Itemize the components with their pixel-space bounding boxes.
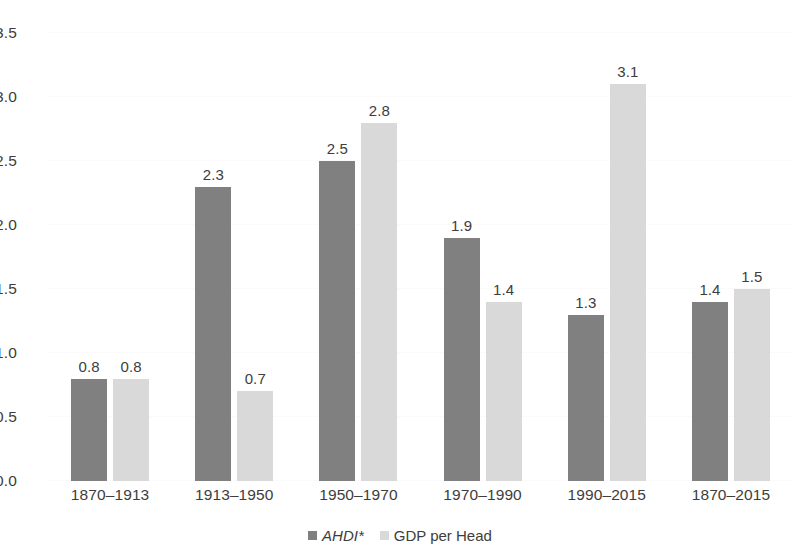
x-axis-tick-label: 1990–2015 [545,487,669,503]
x-axis-tick-label: 1913–1950 [172,487,296,503]
bar-value-label: 1.5 [741,269,762,284]
y-axis-tick-label: 1.5 [0,281,35,297]
bar-value-label: 2.5 [327,141,348,156]
legend-label: AHDI* [322,528,364,543]
chart-legend: AHDI*GDP per Head [0,528,800,543]
bar-ahdi[interactable]: 2.3 [195,187,231,481]
y-axis-tick-label: 2.5 [0,153,35,169]
bar-group: 2.30.7 [172,33,296,481]
legend-item-ahdi[interactable]: AHDI* [308,528,364,543]
bar-group: 2.52.8 [296,33,420,481]
bar-value-label: 1.4 [699,282,720,297]
bar-group: 0.80.8 [48,33,172,481]
bar-value-label: 1.9 [451,218,472,233]
bar-gdp-per-head[interactable]: 0.8 [113,379,149,481]
y-axis-tick-label: 3.5 [0,25,35,41]
legend-swatch-icon [308,531,317,540]
bar-value-label: 2.8 [369,103,390,118]
legend-label: GDP per Head [394,528,492,543]
y-axis-tick-label: 0.5 [0,409,35,425]
plot-area: 0.00.51.01.52.02.53.03.5 0.80.82.30.72.5… [48,33,793,481]
bar-chart: 0.00.51.01.52.02.53.03.5 0.80.82.30.72.5… [0,0,800,560]
bar-value-label: 1.3 [575,295,596,310]
bar-value-label: 3.1 [617,64,638,79]
bar-group: 1.91.4 [421,33,545,481]
bar-gdp-per-head[interactable]: 1.5 [734,289,770,481]
bar-ahdi[interactable]: 1.3 [568,315,604,481]
bar-ahdi[interactable]: 1.4 [692,302,728,481]
bar-value-label: 0.7 [245,371,266,386]
bar-gdp-per-head[interactable]: 0.7 [237,391,273,481]
bar-value-label: 2.3 [203,167,224,182]
x-axis: 1870–19131913–19501950–19701970–19901990… [48,487,793,503]
bar-value-label: 0.8 [121,359,142,374]
legend-item-gdp-per-head[interactable]: GDP per Head [380,528,492,543]
y-axis-tick-label: 1.0 [0,345,35,361]
bar-value-label: 0.8 [79,359,100,374]
bar-gdp-per-head[interactable]: 1.4 [486,302,522,481]
bar-ahdi[interactable]: 0.8 [71,379,107,481]
legend-swatch-icon [380,531,389,540]
x-axis-tick-label: 1870–2015 [669,487,793,503]
bar-value-label: 1.4 [493,282,514,297]
x-axis-tick-label: 1950–1970 [296,487,420,503]
y-axis-tick-label: 2.0 [0,217,35,233]
bar-ahdi[interactable]: 1.9 [444,238,480,481]
y-axis-tick-label: 0.0 [0,473,35,489]
bar-groups: 0.80.82.30.72.52.81.91.41.33.11.41.5 [48,33,793,481]
bar-gdp-per-head[interactable]: 3.1 [610,84,646,481]
bar-ahdi[interactable]: 2.5 [319,161,355,481]
x-axis-tick-label: 1970–1990 [421,487,545,503]
y-axis-tick-label: 3.0 [0,89,35,105]
bar-gdp-per-head[interactable]: 2.8 [361,123,397,481]
x-axis-tick-label: 1870–1913 [48,487,172,503]
bar-group: 1.41.5 [669,33,793,481]
bar-group: 1.33.1 [545,33,669,481]
